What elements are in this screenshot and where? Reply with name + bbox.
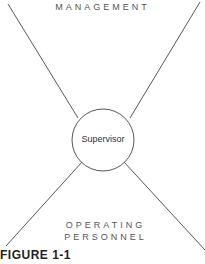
personnel-label: PERSONNEL (3, 232, 205, 242)
operating-label: OPERATING (3, 220, 205, 230)
management-label: MANAGEMENT (0, 2, 205, 12)
line-top-left (8, 4, 78, 118)
line-top-right (130, 2, 200, 118)
figure-caption: FIGURE 1-1 (0, 248, 71, 262)
supervisor-label: Supervisor (73, 134, 133, 144)
